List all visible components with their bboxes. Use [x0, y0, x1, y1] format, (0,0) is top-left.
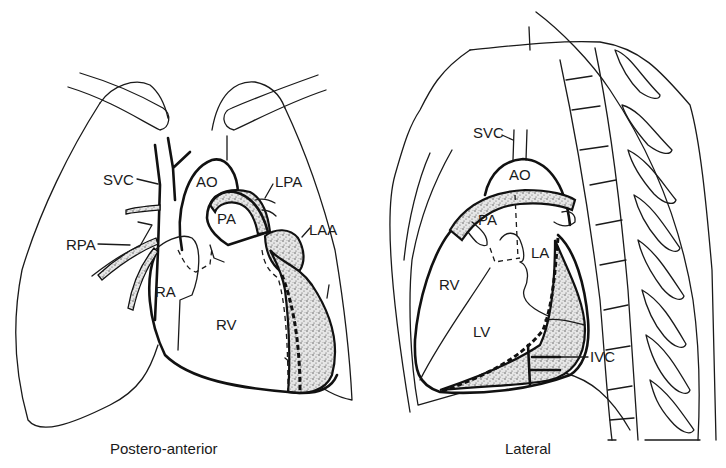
right-hilar-vessel-upper	[126, 205, 160, 214]
caption-lateral: Lateral	[505, 440, 551, 457]
label-ao-pa: AO	[196, 173, 218, 190]
label-ivc: IVC	[590, 348, 615, 365]
label-ao-lateral: AO	[509, 166, 531, 183]
rpa-leader-line	[98, 244, 130, 245]
right-lung-apex	[100, 82, 168, 118]
rib-posterior-elements	[615, 50, 694, 433]
left-clavicle	[224, 75, 326, 130]
label-pa-pa: PA	[217, 210, 236, 227]
label-la: LA	[531, 244, 549, 261]
neck-line	[529, 27, 530, 50]
label-rv-pa: RV	[216, 316, 237, 333]
label-svc-pa: SVC	[103, 171, 134, 188]
right-lung-outline	[16, 103, 158, 427]
heart-chest-diagram: SVC AO LPA PA LAA RPA RA RV Postero-ante…	[0, 0, 726, 468]
label-rv-lateral: RV	[439, 276, 460, 293]
ra-dashed	[178, 248, 212, 272]
postero-anterior-view: SVC AO LPA PA LAA RPA RA RV Postero-ante…	[16, 73, 352, 457]
posterior-heart-shadow	[440, 240, 585, 390]
label-lpa: LPA	[275, 173, 302, 190]
label-ra: RA	[155, 283, 176, 300]
right-clavicle	[68, 73, 169, 130]
diaphragm	[565, 373, 630, 430]
label-rpa: RPA	[66, 236, 96, 253]
label-lv: LV	[473, 323, 490, 340]
left-ventricle-shadow	[270, 250, 335, 393]
label-svc-lateral: SVC	[473, 124, 504, 141]
lateral-view: SVC AO PA LA RV LV IVC Lateral	[390, 12, 716, 457]
svc-leader-line	[137, 179, 158, 184]
label-pa-lateral: PA	[478, 211, 497, 228]
lpa-leader-line	[265, 184, 273, 198]
lv-border-tick	[327, 285, 329, 298]
caption-postero-anterior: Postero-anterior	[110, 440, 218, 457]
label-laa: LAA	[309, 221, 337, 238]
svc-vessels-lateral	[513, 130, 527, 160]
vertebral-column	[560, 48, 700, 440]
svc-ra-junction	[210, 245, 224, 262]
pa-branch-right	[554, 211, 575, 225]
